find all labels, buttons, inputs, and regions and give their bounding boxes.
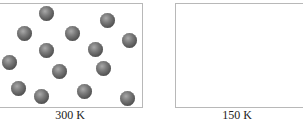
gas-particle [96, 61, 111, 76]
gas-particle [65, 26, 80, 41]
gas-particle [2, 55, 17, 70]
gas-particle [100, 13, 115, 28]
gas-particle [34, 89, 49, 104]
gas-particle [122, 33, 137, 48]
gas-particle [52, 64, 67, 79]
gas-particle [11, 81, 26, 96]
temperature-label-300k: 300 K [30, 108, 110, 123]
container-150k [175, 3, 303, 108]
gas-particle [39, 43, 54, 58]
gas-particle [39, 6, 54, 21]
gas-particle [120, 91, 135, 106]
gas-particle [17, 26, 32, 41]
gas-particle [88, 42, 103, 57]
gas-particle [77, 84, 92, 99]
temperature-label-150k: 150 K [197, 108, 277, 123]
